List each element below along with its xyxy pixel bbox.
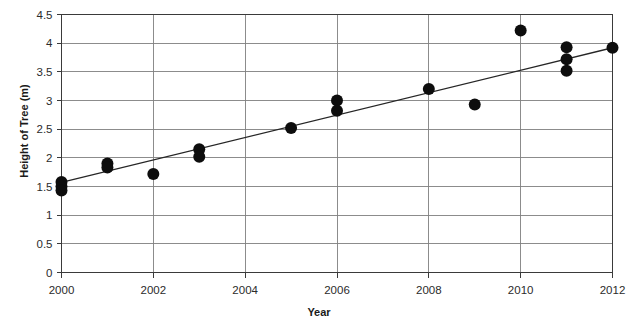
x-tick-label: 2002 [141,284,167,296]
x-tick-label: 2008 [416,284,442,296]
x-tick-label: 2010 [508,284,534,296]
y-tick-label: 4 [46,37,53,49]
scatter-chart-figure: Height of Tree (m) Year 00.511.522.533.5… [0,0,638,329]
data-point [56,185,68,197]
data-point [147,168,159,180]
data-point [331,105,343,117]
y-tick-label: 2 [46,152,52,164]
y-tick-label: 1 [46,209,52,221]
data-point [423,83,435,95]
x-tick-label: 2006 [324,284,350,296]
y-tick-label: 4.5 [37,9,53,21]
data-point [607,42,619,54]
y-tick-label: 3 [46,95,52,107]
data-point [561,53,573,65]
y-tick-labels: 00.511.522.533.544.5 [37,9,54,279]
plot-area: 00.511.522.533.544.5 2000200220042006200… [0,0,638,329]
x-tick-label: 2012 [600,284,626,296]
data-point [331,95,343,107]
y-tick-marks [57,15,62,273]
data-point [469,99,481,111]
chart-svg: 00.511.522.533.544.5 2000200220042006200… [0,0,638,329]
y-tick-label: 2.5 [37,123,53,135]
x-gridlines [153,15,520,273]
x-tick-label: 2004 [232,284,258,296]
y-tick-label: 0.5 [37,238,53,250]
y-tick-label: 1.5 [37,181,53,193]
y-tick-label: 0 [46,267,52,279]
data-point [193,151,205,163]
x-tick-label: 2000 [49,284,75,296]
data-point [561,41,573,53]
data-point [515,25,527,37]
data-point [101,162,113,174]
data-point [561,65,573,77]
x-tick-marks [62,273,613,278]
x-tick-labels: 2000200220042006200820102012 [49,284,626,296]
y-tick-label: 3.5 [37,66,53,78]
data-point [285,122,297,134]
